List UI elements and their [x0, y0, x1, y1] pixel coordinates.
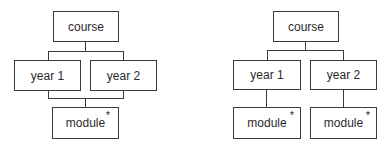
year1-box: year 1: [233, 60, 301, 90]
module-box: module *: [233, 107, 301, 139]
connector: [48, 51, 124, 52]
connector: [267, 50, 344, 51]
connector: [85, 41, 86, 51]
year1-label: year 1: [250, 68, 283, 82]
year2-label: year 2: [327, 68, 360, 82]
year1-label: year 1: [31, 69, 64, 83]
connector: [85, 98, 86, 107]
connector: [266, 89, 267, 107]
course-label: course: [288, 20, 324, 34]
connector: [343, 50, 344, 60]
multiplicity-marker: *: [366, 110, 370, 121]
connector: [305, 41, 306, 50]
connector: [267, 50, 268, 60]
module-label: module: [247, 116, 286, 130]
module-label: module: [324, 116, 363, 130]
connector: [343, 89, 344, 107]
course-label: course: [68, 20, 104, 34]
year2-box: year 2: [90, 60, 157, 91]
course-box: course: [53, 11, 119, 42]
connector: [48, 51, 49, 60]
multiplicity-marker: *: [290, 110, 294, 121]
course-box: course: [273, 11, 339, 42]
year1-box: year 1: [14, 60, 81, 91]
year2-box: year 2: [310, 60, 377, 90]
module-box: module *: [310, 107, 377, 139]
connector: [48, 98, 124, 99]
year2-label: year 2: [107, 69, 140, 83]
module-box: module *: [52, 107, 119, 139]
module-label: module: [66, 116, 105, 130]
multiplicity-marker: *: [106, 110, 110, 121]
connector: [123, 51, 124, 60]
